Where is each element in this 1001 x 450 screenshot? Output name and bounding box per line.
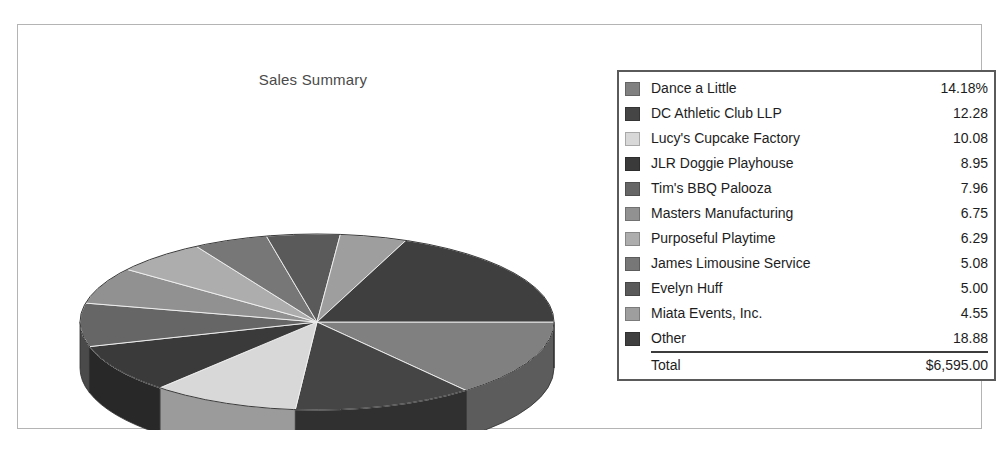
legend-item-value: 8.95	[893, 151, 988, 176]
legend-total-spacer	[625, 352, 651, 378]
legend-row: Dance a Little14.18%	[625, 76, 988, 101]
legend-color-swatch	[625, 82, 640, 96]
legend-row: Tim's BBQ Palooza7.96	[625, 176, 988, 201]
legend-row: Masters Manufacturing6.75	[625, 201, 988, 226]
legend-item-value: 18.88	[893, 326, 988, 352]
legend-row: Other18.88	[625, 326, 988, 352]
legend-row: JLR Doggie Playhouse8.95	[625, 151, 988, 176]
legend-item-value: 7.96	[893, 176, 988, 201]
legend-item-value: 14.18%	[893, 76, 988, 101]
legend-item-value: 6.29	[893, 226, 988, 251]
legend-swatch-cell	[625, 226, 651, 251]
legend-item-label: Evelyn Huff	[651, 276, 893, 301]
pie-top-slices	[80, 234, 554, 410]
legend-swatch-cell	[625, 251, 651, 276]
legend-color-swatch	[625, 332, 640, 346]
legend-swatch-cell	[625, 101, 651, 126]
legend-item-label: Lucy's Cupcake Factory	[651, 126, 893, 151]
legend-row: Miata Events, Inc.4.55	[625, 301, 988, 326]
pie-chart	[40, 210, 600, 430]
legend-swatch-cell	[625, 201, 651, 226]
legend-item-label: Purposeful Playtime	[651, 226, 893, 251]
legend-swatch-cell	[625, 301, 651, 326]
legend-row: DC Athletic Club LLP12.28	[625, 101, 988, 126]
legend-swatch-cell	[625, 326, 651, 352]
legend-swatch-cell	[625, 126, 651, 151]
legend-swatch-cell	[625, 76, 651, 101]
legend-item-value: 5.08	[893, 251, 988, 276]
legend-item-value: 12.28	[893, 101, 988, 126]
legend-table: Dance a Little14.18%DC Athletic Club LLP…	[625, 76, 988, 378]
legend-item-label: JLR Doggie Playhouse	[651, 151, 893, 176]
legend-swatch-cell	[625, 176, 651, 201]
report-frame: Sales Summary Dance a Little14.18%DC Ath…	[17, 24, 982, 429]
legend-color-swatch	[625, 207, 640, 221]
legend-item-label: Other	[651, 326, 893, 352]
legend-color-swatch	[625, 307, 640, 321]
legend-item-value: 10.08	[893, 126, 988, 151]
legend-row: Lucy's Cupcake Factory10.08	[625, 126, 988, 151]
chart-title: Sales Summary	[148, 71, 478, 88]
legend-swatch-cell	[625, 276, 651, 301]
legend-color-swatch	[625, 107, 640, 121]
legend-item-label: DC Athletic Club LLP	[651, 101, 893, 126]
legend-body: Dance a Little14.18%DC Athletic Club LLP…	[625, 76, 988, 378]
legend-color-swatch	[625, 157, 640, 171]
chart-legend: Dance a Little14.18%DC Athletic Club LLP…	[617, 70, 996, 381]
legend-swatch-cell	[625, 151, 651, 176]
legend-item-label: Dance a Little	[651, 76, 893, 101]
legend-total-row: Total$6,595.00	[625, 352, 988, 378]
legend-color-swatch	[625, 182, 640, 196]
legend-row: James Limousine Service5.08	[625, 251, 988, 276]
legend-item-label: Miata Events, Inc.	[651, 301, 893, 326]
legend-color-swatch	[625, 232, 640, 246]
legend-item-value: 5.00	[893, 276, 988, 301]
legend-item-label: Masters Manufacturing	[651, 201, 893, 226]
legend-color-swatch	[625, 257, 640, 271]
legend-row: Evelyn Huff5.00	[625, 276, 988, 301]
legend-total-value: $6,595.00	[893, 352, 988, 378]
legend-total-label: Total	[651, 352, 893, 378]
legend-row: Purposeful Playtime6.29	[625, 226, 988, 251]
legend-color-swatch	[625, 132, 640, 146]
legend-color-swatch	[625, 282, 640, 296]
legend-item-label: James Limousine Service	[651, 251, 893, 276]
legend-item-value: 4.55	[893, 301, 988, 326]
report-canvas: Sales Summary Dance a Little14.18%DC Ath…	[0, 0, 1001, 450]
legend-item-value: 6.75	[893, 201, 988, 226]
legend-item-label: Tim's BBQ Palooza	[651, 176, 893, 201]
pie-chart-svg	[40, 210, 600, 430]
